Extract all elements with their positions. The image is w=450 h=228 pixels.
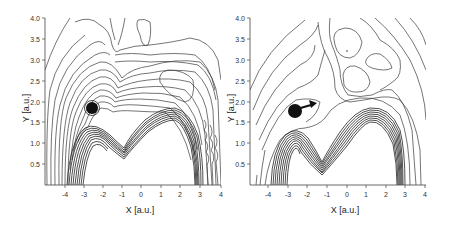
right-xtick-label: -4 [265,191,271,198]
right-ytick-label: 3.5 [235,36,245,43]
left-ytick-label: 4.0 [30,15,40,22]
right-boundary-dense-band [271,108,405,185]
right-ytick-label: 2.0 [235,99,245,106]
right-marker-dot [288,104,302,118]
right-xtick-label: 1 [364,191,368,198]
right-ytick-label: 1.0 [235,140,245,147]
left-xtick-label: -3 [81,191,87,198]
right-x-ticks: -4 -3 -2 -1 0 1 2 3 4 [265,185,427,198]
left-xtick-label: -1 [119,191,125,198]
left-ytick-label: 1.5 [30,119,40,126]
right-ytick-label: 1.5 [235,119,245,126]
right-y-ticks: 0.5 1.0 1.5 2.0 2.5 3.0 3.5 4.0 [235,15,250,168]
right-xtick-label: -2 [304,191,310,198]
right-y-axis-title: Y [a.u.] [226,94,236,122]
left-y-axis-title: Y [a.u.] [21,94,31,122]
right-ytick-label: 2.5 [235,78,245,85]
left-x-ticks: -4 -3 -2 -1 0 1 2 3 4 [62,185,223,198]
right-ytick-label: 0.5 [235,161,245,168]
left-boundary-dense-band [67,108,203,185]
left-x-axis-title: X [a.u.] [126,205,155,215]
figure: 0.5 1.0 1.5 2.0 2.5 3.0 3.5 4.0 -4 -3 -2… [0,0,450,228]
left-y-ticks: 0.5 1.0 1.5 2.0 2.5 3.0 3.5 4.0 [30,15,45,168]
right-x-axis-title: X [a.u.] [331,205,360,215]
left-xtick-label: 3 [198,191,202,198]
right-xtick-label: -3 [285,191,291,198]
left-ytick-label: 0.5 [30,161,40,168]
right-xtick-label: 3 [403,191,407,198]
right-contour-plot: 0.5 1.0 1.5 2.0 2.5 3.0 3.5 4.0 -4 -3 -2… [226,15,427,216]
left-xtick-label: 1 [159,191,163,198]
right-ytick-label: 4.0 [235,15,245,22]
arrow-right-icon [309,100,317,108]
left-contour-plot: 0.5 1.0 1.5 2.0 2.5 3.0 3.5 4.0 -4 -3 -2… [21,15,223,216]
left-contours [45,18,221,185]
left-marker-dot [86,102,98,114]
right-ytick-label: 3.0 [235,57,245,64]
right-xtick-label: 4 [423,191,427,198]
left-ytick-label: 2.0 [30,99,40,106]
left-xtick-label: 4 [219,191,223,198]
left-ytick-label: 2.5 [30,78,40,85]
right-contours [250,18,426,185]
right-xtick-label: -1 [324,191,330,198]
left-ytick-label: 3.5 [30,36,40,43]
left-xtick-label: 0 [139,191,143,198]
right-xtick-label: 2 [384,191,388,198]
left-ytick-label: 1.0 [30,140,40,147]
left-xtick-label: 2 [178,191,182,198]
left-xtick-label: -2 [100,191,106,198]
left-ytick-label: 3.0 [30,57,40,64]
left-xtick-label: -4 [62,191,68,198]
right-xtick-label: 0 [345,191,349,198]
